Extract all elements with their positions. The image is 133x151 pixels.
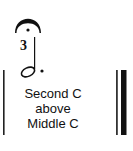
note-label: Second C above Middle C <box>10 86 96 131</box>
final-barline-thin <box>116 70 118 135</box>
final-barline-thick <box>121 70 127 135</box>
dot-icon <box>40 69 43 72</box>
fermata-icon <box>15 19 41 33</box>
left-barline <box>3 70 5 135</box>
fingering-number: 3 <box>20 38 27 54</box>
note-label-line-2: above <box>10 101 96 116</box>
note-label-line-1: Second C <box>10 86 96 101</box>
note-label-line-3: Middle C <box>10 116 96 131</box>
half-note-head <box>20 65 36 79</box>
note-stem <box>34 37 35 69</box>
